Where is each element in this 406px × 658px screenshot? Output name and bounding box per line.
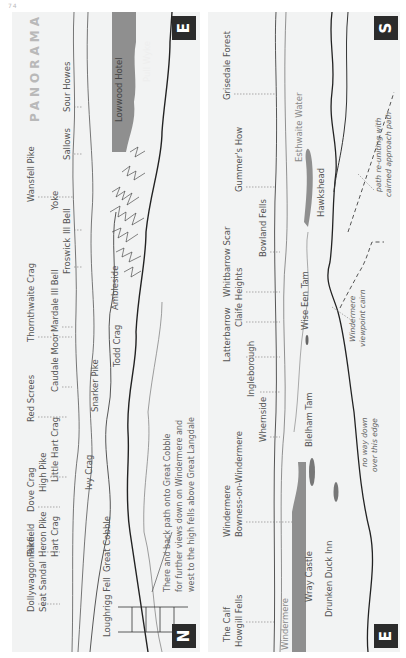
label-howgill-fells: Howgill Fells: [234, 594, 244, 647]
label-dove-crag: Dove Crag: [26, 467, 36, 512]
label-whitbarrow-scar: Whitbarrow Scar: [222, 227, 232, 297]
label-caudale-moor: Caudale Moor: [50, 333, 60, 392]
panorama-left-panel: PANORAMA Dollywaggon Pike Seat Sandal Fa…: [12, 12, 200, 652]
note-path-reuniting-1: path re-uniting with: [374, 118, 384, 192]
label-snarker-pike: Snarker Pike: [90, 359, 100, 412]
label-wise-een-tarn: Wise Een Tam: [300, 271, 310, 330]
compass-e-text: E: [175, 23, 193, 33]
label-esthwaite-water: Esthwaite Water: [294, 93, 304, 162]
label-fairfield: Fairfield: [26, 523, 36, 557]
label-lowwood-hotel: Lowwood Hotel: [114, 57, 124, 122]
route-note-line-2: for further views down on Windermere and: [174, 420, 185, 592]
label-the-calf: The Calf: [222, 607, 232, 642]
compass-s-text: S: [377, 23, 395, 34]
label-grisedale-forest: Grisedale Forest: [222, 31, 232, 100]
label-ingleborough: Ingleborough: [246, 341, 256, 397]
compass-e-right-text: E: [377, 631, 395, 641]
compass-badge-north: N: [172, 624, 196, 648]
panorama-title: PANORAMA: [28, 13, 42, 122]
label-thornthwaite-crag: Thornthwaite Crag: [26, 263, 36, 342]
label-heron-pike: Heron Pike: [38, 512, 48, 557]
label-blelham-tarn: Blelham Tam: [304, 392, 314, 447]
label-gummers-how: Gummer's How: [234, 127, 244, 192]
note-viewpoint-cairn-1: Windermere: [348, 296, 358, 342]
panorama-right-panel: The Calf Howgill Fells Windermere Bownes…: [208, 12, 400, 652]
note-no-way-down-2: over this edge: [370, 418, 380, 472]
page-header: 74: [8, 2, 18, 9]
note-no-way-down-1: no way down: [360, 417, 370, 467]
label-ambleside: Ambleside: [110, 266, 120, 311]
compass-badge-east-right: E: [374, 624, 398, 648]
label-little-hart-crag: Little Hart Crag: [50, 417, 60, 482]
label-whernside: Whernside: [258, 397, 268, 442]
label-sour-howes: Sour Howes: [62, 62, 72, 112]
compass-n-text: N: [175, 630, 193, 643]
route-note-line-1: There and back path onto Great Cobble: [162, 434, 173, 592]
label-latterbarrow: Latterbarrow: [222, 307, 232, 362]
label-wray-castle: Wray Castle: [304, 551, 314, 602]
label-froswick: Froswick: [62, 238, 72, 274]
note-viewpoint-cairn-2: viewpoint cairn: [358, 290, 368, 347]
label-yoke: Yoke: [50, 191, 60, 210]
label-seat-sandal: Seat Sandal: [38, 561, 48, 612]
label-loughrigg-fell: Loughrigg Fell: [102, 577, 112, 637]
label-drunken-duck-inn: Drunken Duck Inn: [324, 541, 334, 617]
label-bowland-fells: Bowland Fells: [258, 199, 268, 257]
route-note-line-3: west to the high fells above Great Langd…: [186, 417, 197, 592]
label-todd-crag: Todd Crag: [112, 325, 122, 367]
label-great-cobble: Great Cobble: [102, 516, 112, 572]
label-windermere-far: Windermere: [222, 485, 232, 537]
label-bowness-on-windermere: Bowness-on-Windermere: [234, 431, 244, 537]
label-hart-crag: Hart Crag: [50, 516, 60, 557]
label-red-screes: Red Screes: [26, 375, 36, 422]
label-pull-wyke: Pull Wyke: [142, 41, 152, 82]
label-mardale-ill-bell: Mardale Ill Bell: [50, 269, 60, 332]
label-ill-bell: Ill Bell: [62, 208, 72, 234]
compass-badge-east: E: [172, 16, 196, 40]
label-high-pike: High Pike: [38, 453, 48, 492]
compass-badge-south: S: [374, 16, 398, 40]
note-path-reuniting-2: cairned approach path: [384, 112, 394, 197]
label-wansfell-pike: Wansfell Pike: [26, 146, 36, 202]
label-claife-heights: Claife Heights: [234, 268, 244, 327]
label-ivy-crag: Ivy Crag: [84, 455, 94, 490]
label-sallows: Sallows: [62, 128, 72, 160]
label-hawkshead: Hawkshead: [316, 168, 326, 217]
label-windermere-lake: Windermere: [280, 598, 290, 650]
